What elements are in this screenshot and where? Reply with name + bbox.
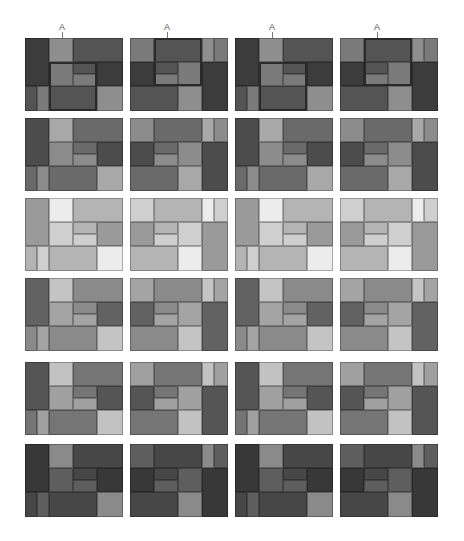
treemap-cell xyxy=(259,86,307,111)
treemap-cell xyxy=(283,38,333,62)
treemap-panel xyxy=(130,362,228,435)
treemap-cell xyxy=(307,222,333,246)
treemap-cell xyxy=(178,62,202,86)
treemap-cell xyxy=(340,444,364,468)
treemap-panel xyxy=(25,362,123,435)
treemap-cell xyxy=(388,410,412,435)
treemap-cell xyxy=(73,74,97,86)
treemap-cell xyxy=(214,362,228,386)
treemap-cell xyxy=(283,302,307,314)
treemap-cell xyxy=(25,362,49,410)
treemap-cell xyxy=(154,222,178,234)
treemap-cell xyxy=(73,154,97,166)
treemap-panel xyxy=(25,198,123,271)
treemap-cell xyxy=(154,38,202,62)
treemap-cell xyxy=(49,302,73,326)
treemap-cell xyxy=(178,302,202,326)
treemap-cell xyxy=(424,38,438,62)
treemap-cell xyxy=(259,142,283,166)
treemap-cell xyxy=(340,278,364,302)
treemap-cell xyxy=(247,326,259,351)
treemap-cell xyxy=(130,86,178,111)
treemap-cell xyxy=(154,444,202,468)
treemap-cell xyxy=(154,154,178,166)
treemap-cell xyxy=(49,38,73,62)
treemap-cell xyxy=(25,246,37,271)
treemap-cell xyxy=(235,86,247,111)
treemap-cell xyxy=(49,118,73,142)
treemap-cell xyxy=(49,198,73,222)
treemap-cell xyxy=(235,444,259,492)
treemap-cell xyxy=(340,246,388,271)
treemap-cell xyxy=(235,492,247,517)
treemap-cell xyxy=(259,492,307,517)
treemap-cell xyxy=(154,302,178,314)
treemap-cell xyxy=(364,314,388,326)
treemap-cell xyxy=(97,62,123,86)
treemap-cell xyxy=(73,142,97,154)
treemap-cell xyxy=(214,198,228,222)
treemap-cell xyxy=(25,492,37,517)
treemap-cell xyxy=(259,362,283,386)
treemap-cell xyxy=(307,246,333,271)
treemap-panel xyxy=(235,118,333,191)
treemap-cell xyxy=(364,62,388,74)
treemap-cell xyxy=(307,492,333,517)
treemap-cell xyxy=(97,142,123,166)
treemap-cell xyxy=(259,62,283,86)
treemap-cell xyxy=(340,118,364,142)
treemap-cell xyxy=(340,410,388,435)
treemap-panel xyxy=(340,38,438,111)
treemap-cell xyxy=(283,118,333,142)
treemap-cell xyxy=(364,302,388,314)
treemap-cell xyxy=(25,166,37,191)
treemap-cell xyxy=(178,410,202,435)
treemap-panel xyxy=(235,362,333,435)
treemap-cell xyxy=(388,302,412,326)
treemap-cell xyxy=(388,386,412,410)
treemap-cell xyxy=(49,222,73,246)
treemap-cell xyxy=(283,362,333,386)
treemap-panel xyxy=(235,38,333,111)
treemap-cell xyxy=(364,444,412,468)
treemap-cell xyxy=(283,278,333,302)
treemap-cell xyxy=(214,444,228,468)
treemap-cell xyxy=(364,198,412,222)
treemap-cell xyxy=(73,222,97,234)
treemap-panel xyxy=(25,278,123,351)
treemap-cell xyxy=(37,166,49,191)
treemap-cell xyxy=(412,198,424,222)
treemap-panel xyxy=(235,198,333,271)
treemap-cell xyxy=(97,468,123,492)
treemap-cell xyxy=(154,118,202,142)
treemap-cell xyxy=(307,166,333,191)
treemap-cell xyxy=(73,314,97,326)
treemap-cell xyxy=(283,468,307,480)
treemap-cell xyxy=(37,410,49,435)
treemap-cell xyxy=(154,234,178,246)
treemap-panel xyxy=(130,278,228,351)
treemap-cell xyxy=(388,326,412,351)
treemap-cell xyxy=(283,398,307,410)
treemap-cell xyxy=(154,398,178,410)
treemap-cell xyxy=(130,246,178,271)
treemap-cell xyxy=(130,166,178,191)
treemap-cell xyxy=(178,166,202,191)
treemap-cell xyxy=(364,38,412,62)
treemap-cell xyxy=(130,62,154,86)
treemap-cell xyxy=(412,118,424,142)
treemap-cell xyxy=(259,246,307,271)
treemap-cell xyxy=(247,246,259,271)
treemap-cell xyxy=(214,38,228,62)
treemap-cell xyxy=(49,166,97,191)
treemap-cell xyxy=(259,302,283,326)
treemap-cell xyxy=(130,492,178,517)
treemap-cell xyxy=(73,468,97,480)
treemap-cell xyxy=(130,468,154,492)
treemap-cell xyxy=(202,302,228,351)
treemap-cell xyxy=(130,302,154,326)
treemap-cell xyxy=(97,492,123,517)
treemap-cell xyxy=(130,278,154,302)
treemap-cell xyxy=(37,326,49,351)
treemap-cell xyxy=(364,386,388,398)
